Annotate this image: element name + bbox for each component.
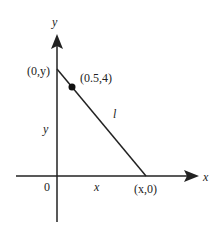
y-intercept-label: (0,y)	[27, 64, 50, 78]
line-label: l	[113, 107, 117, 121]
x-intercept-label: (x,0)	[134, 182, 157, 196]
diagram-canvas: y x 0 (0,y) (0.5,4) l y x (x,0)	[0, 0, 221, 234]
horizontal-segment-label: x	[93, 180, 100, 194]
coordinate-plane: y x 0 (0,y) (0.5,4) l y x (x,0)	[0, 0, 221, 234]
y-axis-label: y	[51, 15, 58, 29]
point-label: (0.5,4)	[80, 71, 112, 85]
point-marker	[69, 84, 76, 91]
x-axis-label: x	[202, 170, 209, 184]
origin-label: 0	[44, 180, 50, 194]
vertical-segment-label: y	[42, 122, 49, 136]
